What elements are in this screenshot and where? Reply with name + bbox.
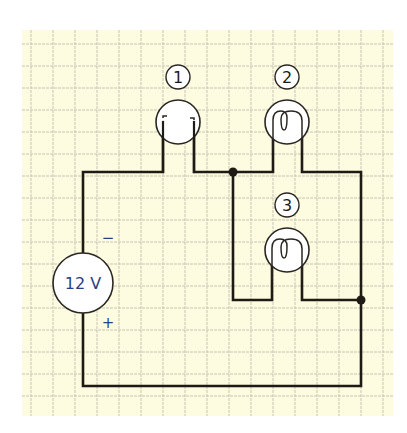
junction-right [357,296,366,305]
positive-terminal-sign: + [102,314,115,332]
bulb-2-label: 2 [282,68,292,87]
source-voltage-label: 12 V [65,274,101,293]
junction-top [229,168,238,177]
bulb-1-label: 1 [173,68,183,87]
negative-terminal-sign: − [102,229,115,247]
circuit-diagram: 12 V − + 1 2 3 [0,0,407,433]
bulb-3-label: 3 [282,196,292,215]
